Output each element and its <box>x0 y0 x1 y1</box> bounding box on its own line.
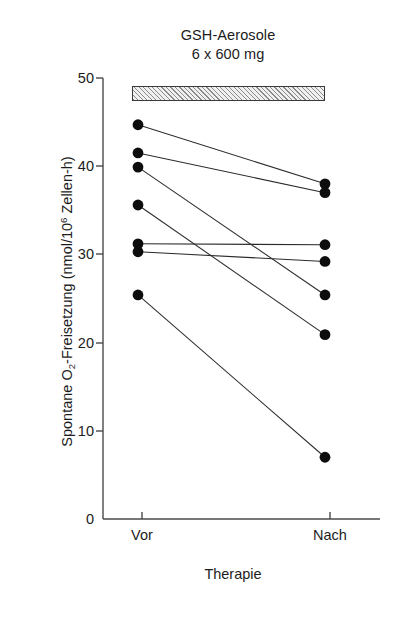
data-pair-1 <box>133 119 331 189</box>
data-pair-5 <box>133 238 331 250</box>
slope-line <box>138 252 325 262</box>
x-axis-ticks <box>142 512 330 519</box>
data-point-nach <box>320 239 331 250</box>
data-point-vor <box>133 290 144 301</box>
data-pair-3 <box>133 162 331 301</box>
y-axis-ticks <box>96 78 103 431</box>
slope-line <box>138 295 325 457</box>
data-point-nach <box>320 187 331 198</box>
data-point-vor <box>133 162 144 173</box>
data-pair-2 <box>133 148 331 198</box>
data-point-vor <box>133 119 144 130</box>
data-point-vor <box>133 148 144 159</box>
slope-line <box>138 205 325 335</box>
chart-figure: GSH-Aerosole 6 x 600 mg Spontane O2-Frei… <box>0 0 407 622</box>
data-point-nach <box>320 452 331 463</box>
slope-line <box>138 125 325 184</box>
data-point-vor <box>133 200 144 211</box>
axis-lines <box>103 78 380 519</box>
data-point-nach <box>320 290 331 301</box>
data-pair-4 <box>133 200 331 340</box>
slope-line <box>138 244 325 245</box>
data-point-vor <box>133 246 144 257</box>
data-series-layer <box>133 119 331 462</box>
data-pair-7 <box>133 290 331 463</box>
data-point-nach <box>320 329 331 340</box>
data-pair-6 <box>133 246 331 267</box>
data-point-nach <box>320 256 331 267</box>
plot-area <box>0 0 407 622</box>
